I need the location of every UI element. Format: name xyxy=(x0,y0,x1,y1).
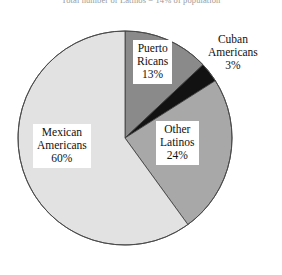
slice-label-name-line2: Latinos xyxy=(160,136,195,149)
slice-label-value: 24% xyxy=(160,149,195,162)
slice-label-name-line2: Americans xyxy=(37,139,87,152)
slice-label-puerto-ricans: Puerto Ricans 13% xyxy=(133,40,172,84)
slice-label-name-line2: Americans xyxy=(208,46,258,59)
slice-label-value: 60% xyxy=(37,152,87,165)
slice-label-value: 13% xyxy=(137,68,168,81)
slice-label-cuban-americans: Cuban Americans 3% xyxy=(208,33,258,72)
slice-label-name-line1: Puerto xyxy=(137,42,168,55)
slice-label-name-line1: Cuban xyxy=(208,33,258,46)
slice-label-other-latinos: Other Latinos 24% xyxy=(156,121,199,165)
slice-label-name-line1: Other xyxy=(160,123,195,136)
pie-chart-figure: Total number of Latinos = 14% of populat… xyxy=(0,0,282,275)
slice-label-name-line2: Ricans xyxy=(137,55,168,68)
slice-label-mexican-americans: Mexican Americans 60% xyxy=(33,124,91,168)
slice-label-name-line1: Mexican xyxy=(37,126,87,139)
slice-label-value: 3% xyxy=(208,59,258,72)
